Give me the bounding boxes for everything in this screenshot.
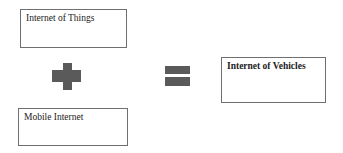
box-internet-of-vehicles: Internet of Vehicles bbox=[221, 57, 326, 103]
equals-bottom-bar bbox=[165, 77, 190, 86]
box-mobile-internet: Mobile Internet bbox=[18, 108, 128, 146]
box-internet-of-things: Internet of Things bbox=[20, 9, 127, 48]
equals-top-bar bbox=[165, 66, 190, 74]
plus-horizontal-bar bbox=[52, 70, 81, 82]
